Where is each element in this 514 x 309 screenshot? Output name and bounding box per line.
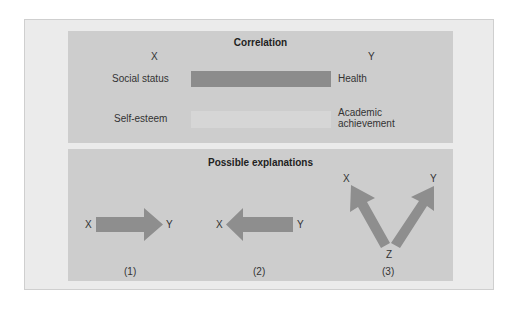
arrow1-y-label: Y	[166, 219, 173, 230]
explanation-1-number: (1)	[124, 266, 136, 277]
arrow1-x-label: X	[85, 219, 92, 230]
correlation-panel: Correlation X Y Social status Health Sel…	[68, 31, 453, 143]
arrow2-x-label: X	[216, 219, 223, 230]
row2-y-label-line1: Academic	[338, 107, 382, 118]
arrow3-z-label: Z	[386, 249, 392, 260]
arrow-left-icon	[226, 208, 293, 241]
arrow-up-right-icon	[391, 186, 434, 248]
arrow2-y-label: Y	[297, 219, 304, 230]
explanations-panel: Possible explanations X Y X Y X Y Z (1) …	[68, 149, 453, 281]
arrow3-y-label: Y	[430, 173, 437, 184]
arrow-up-left-icon	[350, 185, 390, 248]
y-header: Y	[368, 51, 375, 62]
explanation-arrows	[68, 149, 453, 281]
figure-frame: Correlation X Y Social status Health Sel…	[24, 19, 494, 290]
row2-x-label: Self-esteem	[114, 113, 167, 124]
x-header: X	[151, 51, 158, 62]
arrow-right-icon	[96, 208, 163, 241]
arrow3-x-label: X	[343, 173, 350, 184]
correlation-title: Correlation	[68, 37, 453, 48]
explanation-3-number: (3)	[382, 266, 394, 277]
row2-y-label-line2: achievement	[338, 118, 395, 129]
strong-correlation-bar	[191, 71, 331, 87]
row1-y-label: Health	[338, 73, 367, 84]
explanation-2-number: (2)	[253, 266, 265, 277]
weak-correlation-bar	[191, 111, 331, 128]
row1-x-label: Social status	[112, 73, 169, 84]
